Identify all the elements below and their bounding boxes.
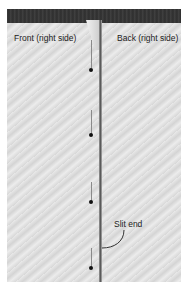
- pin-shaft: [91, 182, 92, 201]
- pin-shaft: [91, 110, 92, 134]
- back-label: Back (right side): [117, 33, 178, 43]
- fabric-surface: [7, 23, 181, 282]
- pin-head-icon: [89, 133, 93, 137]
- sewing-figure: Front (right side) Back (right side) Sli…: [0, 0, 187, 282]
- pin-head-icon: [89, 68, 93, 72]
- pin-shaft: [91, 40, 92, 68]
- left-margin: [0, 9, 7, 282]
- top-margin: [0, 0, 187, 9]
- pin-shaft: [91, 248, 92, 267]
- pin-head-icon: [89, 200, 93, 204]
- front-label: Front (right side): [14, 33, 76, 43]
- pin-head-icon: [89, 266, 93, 270]
- right-margin: [181, 9, 187, 282]
- leader-line-icon: [100, 228, 130, 252]
